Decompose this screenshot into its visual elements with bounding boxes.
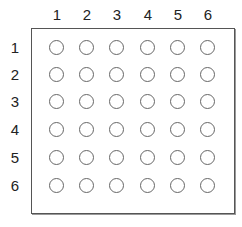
row-label: 2 [8, 66, 22, 84]
grid-cell-circle-icon[interactable] [200, 150, 215, 165]
column-label: 3 [107, 6, 127, 24]
grid-cell-circle-icon[interactable] [140, 40, 155, 55]
grid-cell-circle-icon[interactable] [200, 122, 215, 137]
row-label: 1 [8, 39, 22, 57]
grid-cell-circle-icon[interactable] [170, 122, 185, 137]
grid-cell-circle-icon[interactable] [109, 150, 124, 165]
grid-cell-circle-icon[interactable] [200, 94, 215, 109]
grid-cell-circle-icon[interactable] [79, 67, 94, 82]
row-label: 4 [8, 121, 22, 139]
column-label: 1 [47, 6, 67, 24]
grid-cell-circle-icon[interactable] [49, 178, 64, 193]
grid-cell-circle-icon[interactable] [49, 150, 64, 165]
grid-cell-circle-icon[interactable] [140, 122, 155, 137]
column-label: 2 [77, 6, 97, 24]
grid-cell-circle-icon[interactable] [79, 150, 94, 165]
grid-cell-circle-icon[interactable] [200, 67, 215, 82]
column-label: 4 [138, 6, 158, 24]
grid-cell-circle-icon[interactable] [109, 178, 124, 193]
grid-cell-circle-icon[interactable] [109, 67, 124, 82]
grid-cell-circle-icon[interactable] [109, 94, 124, 109]
grid-cell-circle-icon[interactable] [49, 94, 64, 109]
grid-cell-circle-icon[interactable] [49, 122, 64, 137]
grid-cell-circle-icon[interactable] [79, 94, 94, 109]
grid-cell-circle-icon[interactable] [200, 40, 215, 55]
grid-cell-circle-icon[interactable] [109, 122, 124, 137]
column-label: 6 [198, 6, 218, 24]
grid-cell-circle-icon[interactable] [170, 150, 185, 165]
grid-cell-circle-icon[interactable] [79, 40, 94, 55]
grid-cell-circle-icon[interactable] [49, 67, 64, 82]
grid-cell-circle-icon[interactable] [170, 67, 185, 82]
grid-cell-circle-icon[interactable] [79, 122, 94, 137]
grid-cell-circle-icon[interactable] [109, 40, 124, 55]
grid-cell-circle-icon[interactable] [49, 40, 64, 55]
grid-cell-circle-icon[interactable] [79, 178, 94, 193]
row-label: 3 [8, 93, 22, 111]
grid-cell-circle-icon[interactable] [140, 94, 155, 109]
grid-cell-circle-icon[interactable] [140, 178, 155, 193]
row-label: 6 [8, 177, 22, 195]
grid-cell-circle-icon[interactable] [200, 178, 215, 193]
column-label: 5 [168, 6, 188, 24]
grid-cell-circle-icon[interactable] [170, 40, 185, 55]
grid-cell-circle-icon[interactable] [170, 178, 185, 193]
grid-cell-circle-icon[interactable] [140, 67, 155, 82]
grid-cell-circle-icon[interactable] [170, 94, 185, 109]
grid-cell-circle-icon[interactable] [140, 150, 155, 165]
row-label: 5 [8, 149, 22, 167]
